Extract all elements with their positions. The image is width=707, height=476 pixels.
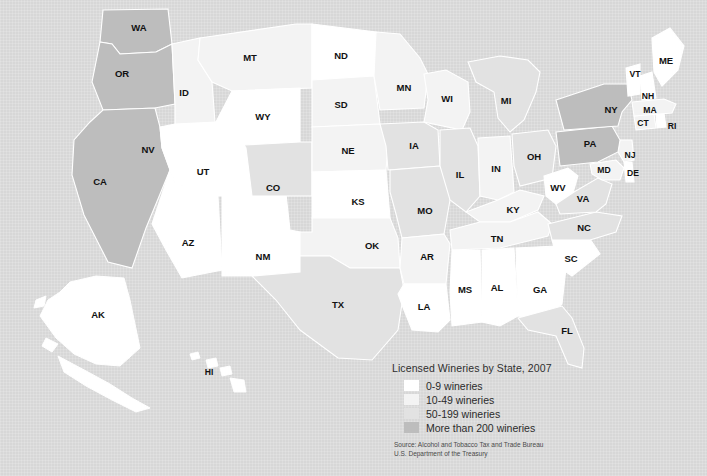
legend-swatch-50-199 xyxy=(404,408,419,419)
state-shape-MO[interactable] xyxy=(390,166,450,238)
state-shape-KS[interactable] xyxy=(312,170,390,218)
state-shape-WI[interactable] xyxy=(424,70,470,130)
state-shape-WY[interactable] xyxy=(216,88,300,145)
map-legend: Licensed Wineries by State, 2007 0-9 win… xyxy=(392,362,692,458)
legend-label-10-49: 10-49 wineries xyxy=(426,394,494,406)
state-shape-DE[interactable] xyxy=(624,162,634,182)
state-shape-NJ[interactable] xyxy=(618,140,634,162)
state-shape-IA[interactable] xyxy=(380,122,440,170)
state-shape-MI[interactable] xyxy=(468,56,540,132)
state-shape-NC[interactable] xyxy=(548,212,622,240)
state-shape-CO[interactable] xyxy=(244,142,312,196)
legend-item-10-49: 10-49 wineries xyxy=(392,393,692,406)
legend-label-200-plus: More than 200 wineries xyxy=(426,422,535,434)
state-shape-LA[interactable] xyxy=(398,284,450,332)
state-shape-PA[interactable] xyxy=(556,126,620,166)
legend-item-50-199: 50-199 wineries xyxy=(392,407,692,420)
state-shape-ME[interactable] xyxy=(652,28,684,86)
state-shape-MA[interactable] xyxy=(632,99,676,116)
legend-label-50-199: 50-199 wineries xyxy=(426,408,500,420)
state-shape-NM[interactable] xyxy=(222,194,300,276)
state-shape-IN[interactable] xyxy=(478,136,514,200)
state-shape-MN[interactable] xyxy=(374,32,428,110)
state-shape-NY[interactable] xyxy=(556,84,632,130)
legend-swatch-200-plus xyxy=(404,422,419,433)
state-label-HI: HI xyxy=(205,367,214,377)
legend-item-0-9: 0-9 wineries xyxy=(392,379,692,392)
state-shape-NH[interactable] xyxy=(640,72,656,100)
state-shape-ND[interactable] xyxy=(312,24,376,80)
state-label-RI: RI xyxy=(668,121,677,131)
legend-swatch-10-49 xyxy=(404,394,419,405)
legend-item-200-plus: More than 200 wineries xyxy=(392,421,692,434)
state-shape-HI[interactable] xyxy=(190,352,246,392)
state-shape-FL[interactable] xyxy=(518,306,584,368)
legend-source: Source: Alcohol and Tobacco Tax and Trad… xyxy=(394,441,692,458)
legend-label-0-9: 0-9 wineries xyxy=(426,380,483,392)
map-container: WA OR CA ID NV UT AZ NM MT WY CO ND SD N… xyxy=(0,0,707,476)
state-shape-AK[interactable] xyxy=(34,276,150,412)
state-shape-MS[interactable] xyxy=(450,250,482,326)
state-shape-AR[interactable] xyxy=(400,234,450,284)
state-shape-CA[interactable] xyxy=(72,108,170,268)
state-shape-AL[interactable] xyxy=(482,248,518,326)
state-shape-MT[interactable] xyxy=(198,24,312,91)
state-shape-NE[interactable] xyxy=(312,124,388,172)
legend-swatch-0-9 xyxy=(404,380,419,391)
state-shape-MD[interactable] xyxy=(590,160,624,180)
state-shape-VT[interactable] xyxy=(626,64,640,96)
state-shape-RI[interactable] xyxy=(656,113,666,128)
state-shape-CT[interactable] xyxy=(634,114,656,130)
state-shape-SD[interactable] xyxy=(312,76,380,127)
legend-title: Licensed Wineries by State, 2007 xyxy=(392,362,692,374)
